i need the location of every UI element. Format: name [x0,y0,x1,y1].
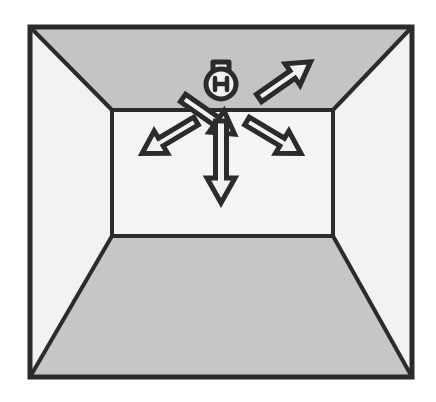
room-perspective-illustration [0,0,436,402]
diagram-canvas: Room interior light distribution [0,0,436,402]
ceiling-lamp-icon [206,62,236,99]
